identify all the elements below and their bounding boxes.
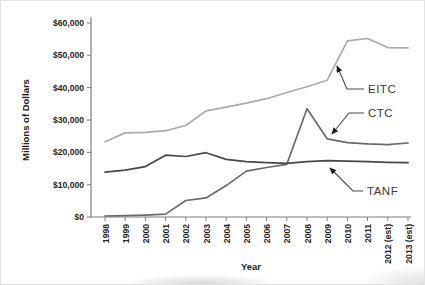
tanf-leader-arrow xyxy=(330,168,363,191)
y-tick-label: $50,000 xyxy=(53,50,84,60)
y-tick-label: $60,000 xyxy=(53,18,84,28)
x-tick-label: 1999 xyxy=(121,224,131,243)
series-line-eitc xyxy=(105,39,408,142)
eitc-series-label: EITC xyxy=(368,83,396,95)
figure-page: $0$10,000$20,000$30,000$40,000$50,000$60… xyxy=(0,0,425,285)
x-tick-label: 2003 xyxy=(202,224,212,243)
x-tick-label: 2007 xyxy=(282,224,292,243)
x-tick-label: 2012 (est) xyxy=(383,224,393,264)
x-tick-label: 2011 xyxy=(363,224,373,243)
x-tick-label: 2008 xyxy=(303,224,313,243)
y-tick-label: $30,000 xyxy=(53,115,84,125)
y-axis-title: Millions of Dollars xyxy=(20,79,31,161)
x-tick-label: 2004 xyxy=(222,224,232,243)
y-tick-label: $10,000 xyxy=(53,180,84,190)
x-tick-label: 1998 xyxy=(101,224,111,243)
x-tick-label: 2002 xyxy=(181,224,191,243)
x-tick-label: 2010 xyxy=(343,224,353,243)
x-tick-label: 2005 xyxy=(242,224,252,243)
x-tick-label: 2013 (est) xyxy=(404,224,414,264)
ctc-leader-arrow xyxy=(332,113,364,134)
ctc-series-label: CTC xyxy=(368,107,393,119)
data-series-lines xyxy=(105,39,408,217)
x-axis-title: Year xyxy=(241,261,261,272)
x-tick-label: 2006 xyxy=(262,224,272,243)
y-tick-label: $40,000 xyxy=(53,83,84,93)
axes xyxy=(90,17,411,217)
y-tick-label: $0 xyxy=(74,212,84,222)
x-tick-label: 2009 xyxy=(323,224,333,243)
series-annotations: EITC CTC TANF xyxy=(330,66,398,197)
y-tick-label: $20,000 xyxy=(53,147,84,157)
eitc-leader-arrow xyxy=(337,66,364,89)
x-tick-label: 2000 xyxy=(141,224,151,243)
x-tick-label: 2001 xyxy=(161,224,171,243)
line-chart: $0$10,000$20,000$30,000$40,000$50,000$60… xyxy=(1,1,425,285)
tanf-series-label: TANF xyxy=(367,185,398,197)
